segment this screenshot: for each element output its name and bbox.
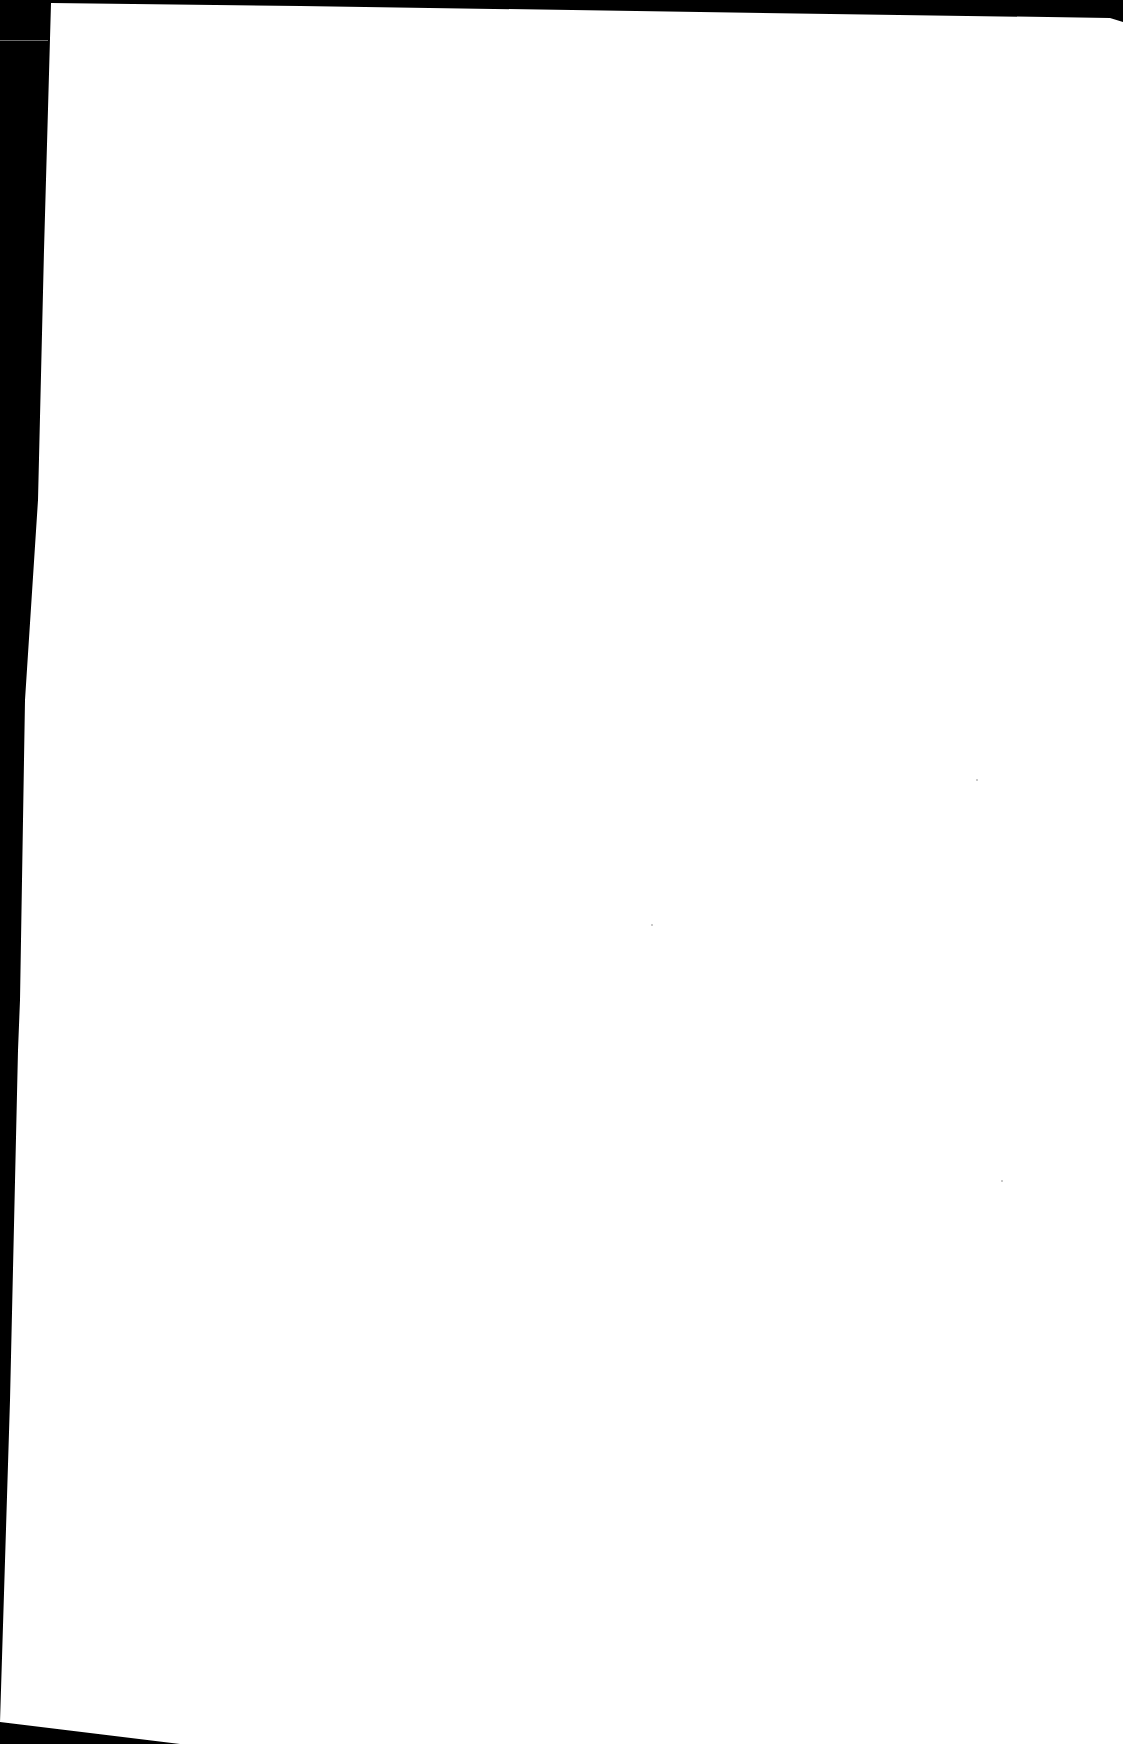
- dust-speck: [651, 924, 653, 926]
- blank-page: [0, 0, 1123, 1744]
- scan-background: [0, 0, 1123, 1744]
- scan-edge-mark: [0, 40, 48, 41]
- dust-speck: [1001, 1180, 1003, 1182]
- dust-speck: [976, 779, 978, 781]
